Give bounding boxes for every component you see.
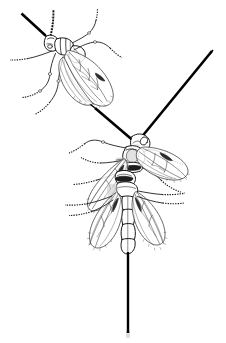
entomological-figure — [0, 0, 226, 343]
insect-plate-svg — [0, 0, 226, 343]
ovipositor-icon — [127, 252, 130, 338]
